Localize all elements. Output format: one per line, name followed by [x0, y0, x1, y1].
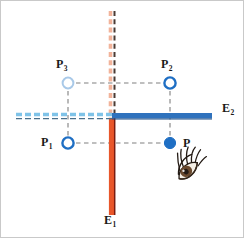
- point-p3-marker: [63, 78, 74, 89]
- label-e2: E2: [222, 102, 234, 114]
- mirror-e2-solid: [112, 116, 212, 119]
- label-p: P: [183, 137, 191, 149]
- label-e1: E1: [104, 214, 116, 226]
- mirror-e1-solid: [112, 118, 115, 215]
- label-p2: P2: [161, 58, 172, 70]
- label-p1: P1: [41, 136, 52, 148]
- optics-diagram-figure: E1 E2 P P1 P2 P3: [0, 0, 244, 238]
- mirror-e1-dashed-extension: [111, 11, 115, 118]
- point-p1-marker: [62, 137, 73, 148]
- diagram-canvas: [1, 1, 244, 238]
- point-p2-marker: [164, 77, 175, 88]
- mirror-e2-dashed-extension: [16, 115, 113, 119]
- label-p3: P3: [56, 58, 67, 70]
- point-p-marker: [164, 137, 175, 148]
